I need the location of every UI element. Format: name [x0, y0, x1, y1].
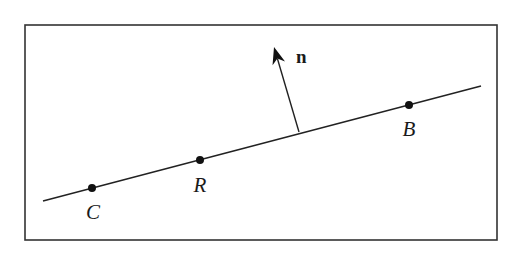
- point-r-dot: [196, 156, 204, 164]
- point-r: R: [193, 156, 207, 197]
- point-c-dot: [88, 184, 96, 192]
- point-c: C: [86, 184, 101, 224]
- point-b: B: [403, 101, 416, 141]
- line: [43, 86, 481, 201]
- point-b-label: B: [403, 117, 416, 141]
- point-b-dot: [405, 101, 413, 109]
- normal-vector-label: n: [296, 46, 307, 67]
- point-c-label: C: [86, 200, 101, 224]
- diagram-canvas: n C R B: [0, 0, 508, 255]
- point-r-label: R: [193, 173, 207, 197]
- normal-vector-shaft: [277, 59, 299, 132]
